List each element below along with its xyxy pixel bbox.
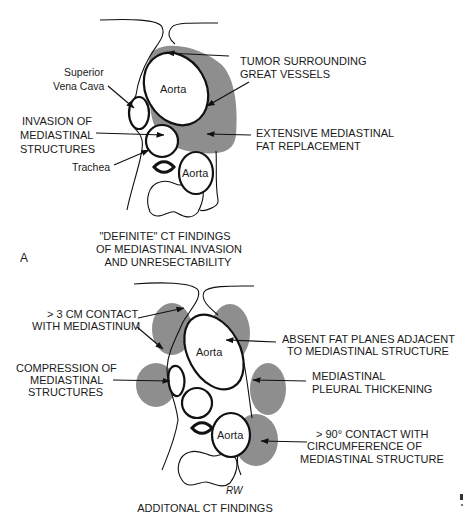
panel-a-caption-line3: AND UNRESECTABILITY: [105, 256, 233, 268]
panel-b: Aorta Aorta > 3 CM CONTACT WITH MEDIASTI…: [16, 283, 455, 513]
contact-90-line3: MEDIASTINAL STRUCTURE: [300, 453, 444, 465]
contact-90-line1: > 90° CONTACT WITH: [316, 428, 429, 440]
superior-vena-cava: [129, 97, 149, 129]
svc-label-line2: Vena Cava: [53, 80, 105, 92]
trachea-shape-b: [192, 423, 212, 434]
fat-label-line1: EXTENSIVE MEDIASTINAL: [256, 127, 394, 139]
invasion-label-line1: INVASION OF: [22, 115, 92, 127]
invasion-label-line3: STRUCTURES: [20, 143, 95, 155]
trachea-label: Trachea: [72, 161, 110, 173]
contact-3cm-line1: > 3 CM CONTACT: [47, 308, 138, 320]
trachea-arrow: [114, 150, 149, 165]
artist-signature: RW: [226, 485, 244, 496]
pleural-line2: PLEURAL THICKENING: [312, 383, 432, 395]
ct-findings-diagram: Aorta Aorta Superior Vena Cava INVASION …: [0, 0, 463, 513]
svc-label-line1: Superior: [64, 66, 104, 78]
aorta-descending-b-label: Aorta: [217, 429, 244, 441]
compression-line2: MEDIASTINAL: [30, 374, 103, 386]
absent-fat-line2: TO MEDIASTINAL STRUCTURE: [287, 345, 449, 357]
aorta-descending-label: Aorta: [182, 167, 209, 179]
contact-3cm-line2: WITH MEDIASTINUM: [32, 320, 140, 332]
esophagus-structure-b: [182, 388, 212, 418]
fat-label-line2: FAT REPLACEMENT: [256, 140, 361, 152]
panel-a: Aorta Aorta Superior Vena Cava INVASION …: [20, 20, 394, 268]
nodule-mid-right: [250, 363, 286, 415]
invaded-structure: [146, 125, 178, 157]
contact-90-line2: CIRCUMFERENCE OF: [307, 440, 422, 452]
invasion-label-line2: MEDIASTINAL: [20, 129, 93, 141]
absent-fat-line1: ABSENT FAT PLANES ADJACENT: [282, 333, 455, 345]
panel-a-caption-line2: OF MEDIASTINAL INVASION: [96, 243, 242, 255]
aorta-ascending-b-label: Aorta: [196, 346, 223, 358]
svc-arrow: [108, 86, 134, 108]
panel-b-caption: ADDITONAL CT FINDINGS: [137, 502, 272, 513]
pleural-line1: MEDIASTINAL: [312, 370, 385, 382]
trachea-shape: [154, 162, 174, 173]
tumor-label-line1: TUMOR SURROUNDING: [240, 55, 367, 67]
compression-line3: STRUCTURES: [28, 386, 103, 398]
tumor-label-line2: GREAT VESSELS: [240, 68, 330, 80]
panel-a-letter: A: [20, 251, 28, 265]
panel-a-caption-line1: "DEFINITE" CT FINDINGS: [99, 230, 230, 242]
mediastinum-outline-right: [169, 23, 218, 44]
aorta-ascending-label: Aorta: [160, 83, 187, 95]
compression-line1: COMPRESSION OF: [16, 362, 117, 374]
compressed-svc: [168, 366, 184, 396]
